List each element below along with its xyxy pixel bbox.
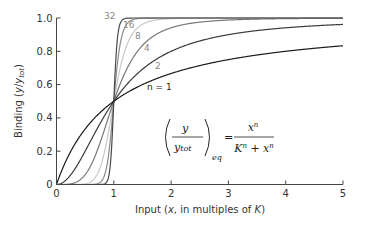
x-axis-title: Input (x, in multiples of K) <box>135 204 265 215</box>
right-paren <box>205 119 210 156</box>
x-tick-label: 2 <box>168 188 174 199</box>
curve-label-n-1: n = 1 <box>147 82 172 92</box>
x-tick-label: 1 <box>111 188 117 199</box>
curve-n-2 <box>57 24 344 184</box>
y-tick-label: 0.8 <box>37 46 53 57</box>
x-tick-label: 4 <box>283 188 289 199</box>
x-tick-label: 0 <box>53 188 59 199</box>
y-axis-title: Binding (y/ytot) <box>13 64 26 138</box>
eq-lhs-subscript: eq <box>212 153 222 162</box>
curve-label-n-8: 8 <box>135 31 141 41</box>
curve-label-n-16: 16 <box>123 20 135 30</box>
eq-rhs-numerator: xn <box>248 121 259 134</box>
curve-n-1 <box>57 46 344 185</box>
eq-equals: = <box>224 131 233 144</box>
left-paren <box>166 119 171 156</box>
curve-label-n-2: 2 <box>155 61 161 71</box>
curve-label-n-4: 4 <box>144 43 150 53</box>
eq-lhs-numerator: y <box>181 122 189 135</box>
curve-n-32 <box>57 18 344 185</box>
y-tick-label: 0.2 <box>37 146 53 157</box>
curve-n-4 <box>57 18 344 184</box>
eq-lhs-denominator: ytot <box>173 141 192 154</box>
curve-n-16 <box>57 18 344 185</box>
eq-rhs-denominator: Kn + xn <box>233 142 274 155</box>
y-tick-label: 0.4 <box>37 112 53 123</box>
hill-equation: y ytot eq = xn Kn + xn <box>166 119 275 162</box>
y-tick-label: 1.0 <box>37 13 53 24</box>
y-tick-label: 0.6 <box>37 79 53 90</box>
curves <box>57 18 344 185</box>
y-tick-label: 0 <box>46 179 52 190</box>
hill-binding-chart: n = 12481632 012345 00.20.40.60.81.0 Inp… <box>0 0 369 225</box>
curve-n-8 <box>57 18 344 185</box>
x-tick-label: 3 <box>225 188 231 199</box>
x-tick-label: 5 <box>340 188 346 199</box>
curve-label-n-32: 32 <box>104 11 115 21</box>
